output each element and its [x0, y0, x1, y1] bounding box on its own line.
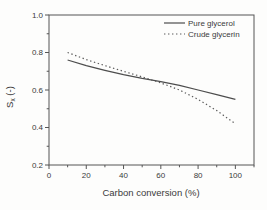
x-tick-label: 40	[119, 171, 128, 180]
figure-canvas: 0204060801000.20.40.60.81.0 Carbon conve…	[0, 0, 267, 210]
chart: 0204060801000.20.40.60.81.0 Carbon conve…	[0, 0, 267, 210]
y-tick-label: 0.6	[32, 86, 44, 95]
x-tick-label: 60	[156, 171, 165, 180]
x-tick-label: 80	[194, 171, 203, 180]
legend: Pure glycerol Crude glycerin	[164, 19, 240, 39]
y-tick-label: 1.0	[32, 11, 44, 20]
x-tick-label: 20	[82, 171, 91, 180]
legend-label-crude-glycerin: Crude glycerin	[188, 30, 240, 39]
y-axis-title: Sx (-)	[4, 86, 16, 108]
legend-label-pure-glycerol: Pure glycerol	[188, 19, 235, 28]
y-axis-title-unit: (-)	[4, 86, 15, 98]
y-tick-label: 0.4	[32, 123, 44, 132]
x-tick-label: 0	[47, 171, 52, 180]
x-axis-title: Carbon conversion (%)	[102, 187, 199, 198]
series-line-crude-glycerin	[68, 53, 236, 124]
y-tick-label: 0.8	[32, 48, 44, 57]
y-tick-label: 0.2	[32, 161, 44, 170]
x-tick-label: 100	[229, 171, 243, 180]
